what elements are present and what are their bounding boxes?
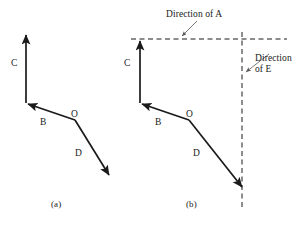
label-vector-d-panel-a: D	[75, 148, 82, 159]
vector-b-b	[142, 104, 189, 120]
caption-panel-b: (b)	[186, 199, 197, 210]
label-origin-panel-b: O	[186, 109, 193, 120]
label-vector-c-panel-a: C	[11, 58, 17, 69]
figure-canvas	[0, 0, 302, 225]
label-vector-b-panel-a: B	[40, 117, 46, 128]
vector-diagram-figure: C B O D (a) C B O D (b) Direction of A D…	[0, 0, 302, 225]
label-origin-panel-a: O	[71, 109, 78, 120]
vector-b-a	[28, 104, 75, 120]
panel-b	[131, 21, 287, 207]
label-vector-d-panel-b: D	[193, 148, 200, 159]
label-vector-c-panel-b: C	[124, 58, 130, 69]
leader-direction-of-a	[182, 21, 197, 36]
caption-panel-a: (a)	[51, 199, 61, 210]
panel-a	[26, 35, 109, 175]
label-vector-b-panel-b: B	[155, 117, 161, 128]
annotation-direction-of-a: Direction of A	[166, 9, 222, 20]
annotation-direction-of-e: Direction of E	[255, 53, 292, 75]
